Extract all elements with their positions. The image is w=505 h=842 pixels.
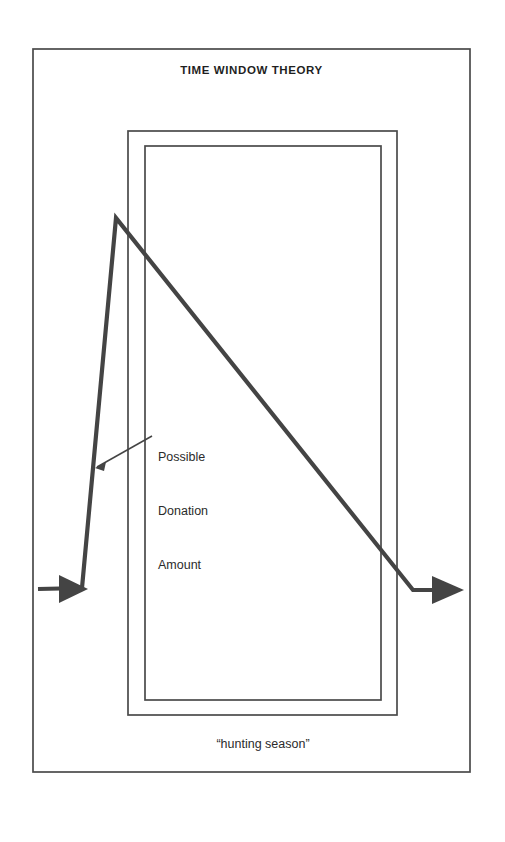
page-title: TIME WINDOW THEORY bbox=[33, 64, 470, 76]
annotation-leader-arrowhead-icon bbox=[95, 462, 106, 471]
donation-amount-annotation: Possible Donation Amount bbox=[158, 412, 208, 610]
annotation-leader-line bbox=[97, 436, 152, 467]
annotation-line-1: Possible bbox=[158, 448, 208, 466]
right-arrowhead-icon bbox=[432, 576, 464, 604]
donation-curve-line bbox=[38, 218, 448, 590]
hunting-season-label: “hunting season” bbox=[128, 737, 398, 751]
annotation-line-3: Amount bbox=[158, 556, 208, 574]
annotation-line-2: Donation bbox=[158, 502, 208, 520]
diagram-canvas bbox=[0, 0, 505, 842]
figure-root: TIME WINDOW THEORY Possible Donation Amo… bbox=[0, 0, 505, 842]
